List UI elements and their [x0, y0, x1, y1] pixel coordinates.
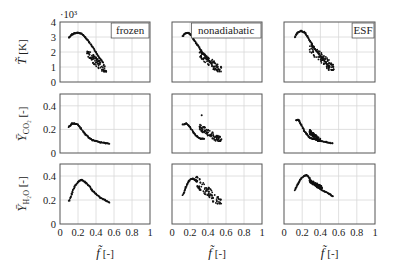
data-points [294, 174, 334, 197]
axes-frame [60, 164, 150, 224]
svg-text:0.6: 0.6 [219, 227, 232, 238]
subplot-r1-c0: 00.20.4 [43, 94, 150, 159]
x-axis-label: f̃[-] [208, 245, 226, 260]
y-tick-labels: 01234 [51, 17, 57, 88]
svg-text:0: 0 [281, 227, 286, 238]
svg-text:0.4: 0.4 [43, 101, 57, 112]
subplot-r0-c2: ESF [284, 22, 375, 82]
grid-lines [60, 164, 150, 224]
subplot-r2-c1: 00.20.40.60.81f̃[-] [169, 164, 264, 260]
svg-text:ESF: ESF [354, 24, 373, 36]
subplot-r2-c0: 00.20.400.20.40.60.81f̃[-] [43, 164, 153, 260]
y-tick-labels: 00.20.4 [43, 101, 57, 159]
x-axis-label: f̃[-] [321, 245, 339, 260]
svg-text:1: 1 [51, 62, 56, 73]
svg-text:0.2: 0.2 [296, 227, 309, 238]
svg-text:0.4: 0.4 [89, 227, 103, 238]
subplot-r1-c1 [172, 94, 262, 153]
svg-text:0.8: 0.8 [125, 227, 138, 238]
data-points [294, 30, 335, 71]
svg-text:0.4: 0.4 [201, 227, 215, 238]
svg-text:1: 1 [259, 227, 264, 238]
svg-text:4: 4 [51, 17, 57, 28]
axes-frame [172, 164, 262, 224]
x-tick-labels: 00.20.40.60.81 [169, 227, 264, 238]
data-points [182, 114, 223, 142]
y-exponent-label: ·10³ [60, 9, 77, 20]
data-points [68, 122, 111, 144]
svg-text:0.4: 0.4 [314, 227, 328, 238]
svg-text:0.2: 0.2 [43, 195, 56, 206]
x-axis-label: f̃[-] [96, 245, 114, 260]
x-tick-labels: 00.20.40.60.81 [281, 227, 377, 238]
svg-text:0: 0 [57, 227, 62, 238]
legend-nonadiabatic: nonadiabatic [191, 23, 261, 38]
subplot-r0-c1: nonadiabatic [172, 22, 262, 82]
svg-text:0.8: 0.8 [237, 227, 250, 238]
subplot-r0-c0: frozen01234 [51, 17, 150, 88]
scatter-figure-grid: frozen01234nonadiabaticESF00.20.400.20.4… [0, 0, 397, 271]
svg-text:nonadiabatic: nonadiabatic [198, 24, 254, 36]
grid-lines [284, 94, 375, 153]
svg-text:0: 0 [51, 219, 56, 230]
y-axis-label-row-0: T̃ [K] [14, 39, 29, 64]
svg-text:1: 1 [147, 227, 152, 238]
svg-text:0.6: 0.6 [107, 227, 120, 238]
subplot-r1-c2 [284, 94, 375, 153]
svg-text:frozen: frozen [116, 24, 145, 36]
axes-frame [284, 94, 375, 153]
svg-text:0: 0 [51, 148, 56, 159]
grid-lines [172, 164, 262, 224]
y-tick-labels: 00.20.4 [43, 171, 57, 230]
legend-esf: ESF [352, 23, 374, 38]
svg-text:0: 0 [169, 227, 174, 238]
svg-text:0.6: 0.6 [332, 227, 345, 238]
y-axis-label-row-1: ȲCO₂ [-] [14, 107, 31, 142]
svg-text:0: 0 [51, 77, 56, 88]
svg-text:2: 2 [51, 47, 56, 58]
legend-frozen: frozen [111, 23, 149, 38]
svg-text:0.4: 0.4 [43, 171, 57, 182]
svg-text:3: 3 [51, 32, 56, 43]
svg-text:0.8: 0.8 [350, 227, 363, 238]
svg-text:1: 1 [372, 227, 377, 238]
data-points [295, 119, 333, 145]
svg-text:0.2: 0.2 [183, 227, 196, 238]
svg-text:0.2: 0.2 [43, 124, 56, 135]
svg-text:0.2: 0.2 [71, 227, 84, 238]
y-axis-label-row-2: ȲH₂O [-] [14, 176, 31, 211]
x-tick-labels: 00.20.40.60.81 [57, 227, 152, 238]
subplot-r2-c2: 00.20.40.60.81f̃[-] [281, 164, 377, 260]
